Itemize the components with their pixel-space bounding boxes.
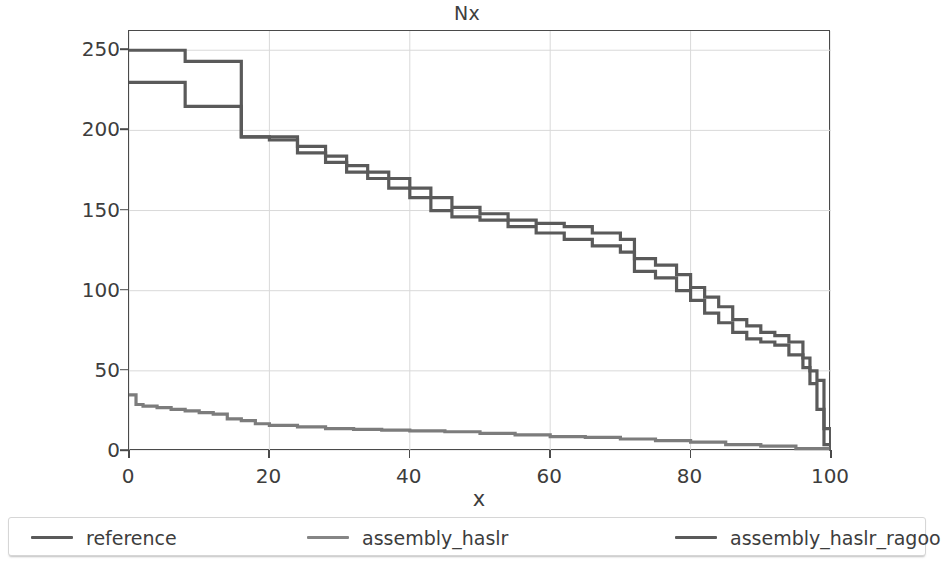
legend-entry[interactable]: assembly_haslr_ragoo <box>675 518 941 557</box>
y-tick-mark <box>120 449 128 451</box>
y-tick-mark <box>120 129 128 131</box>
series-lines <box>129 50 831 451</box>
series-line <box>129 395 831 451</box>
x-axis-tick-labels: 020406080100 <box>128 452 830 488</box>
y-tick-label: 250 <box>60 37 120 61</box>
chart-title: Nx <box>0 2 934 24</box>
x-tick-label: 60 <box>514 464 584 488</box>
y-tick-label: 200 <box>60 117 120 141</box>
y-axis-tick-labels: 050100150200250 <box>48 30 120 450</box>
plot-svg <box>129 31 831 451</box>
y-tick-label: 0 <box>60 438 120 462</box>
x-tick-label: 40 <box>374 464 444 488</box>
series-line <box>129 50 831 451</box>
legend-color-swatch <box>307 536 349 539</box>
x-tick-mark <box>690 450 692 458</box>
legend-entry[interactable]: reference <box>31 518 177 557</box>
x-axis-label: x <box>128 487 830 511</box>
x-tick-mark <box>549 450 551 458</box>
y-tick-label: 50 <box>60 358 120 382</box>
x-tick-mark <box>128 450 130 458</box>
x-tick-mark <box>268 450 270 458</box>
x-tick-label: 0 <box>93 464 163 488</box>
y-tick-label: 150 <box>60 198 120 222</box>
x-tick-label: 80 <box>655 464 725 488</box>
legend-color-swatch <box>675 536 717 539</box>
legend-label: reference <box>86 527 177 549</box>
legend-color-swatch <box>31 536 73 539</box>
y-tick-label: 100 <box>60 278 120 302</box>
series-line <box>129 82 831 451</box>
x-tick-mark <box>830 450 832 458</box>
gridlines <box>129 31 831 451</box>
plot-area <box>128 30 830 450</box>
legend-entry[interactable]: assembly_haslr <box>307 518 508 557</box>
y-tick-mark <box>120 48 128 50</box>
legend: referenceassembly_haslrassembly_haslr_ra… <box>8 517 926 556</box>
legend-label: assembly_haslr_ragoo <box>730 527 941 549</box>
x-tick-label: 100 <box>795 464 865 488</box>
legend-label: assembly_haslr <box>362 527 508 549</box>
y-tick-mark <box>120 369 128 371</box>
y-tick-mark <box>120 209 128 211</box>
y-tick-mark <box>120 289 128 291</box>
x-tick-label: 20 <box>233 464 303 488</box>
x-tick-mark <box>409 450 411 458</box>
